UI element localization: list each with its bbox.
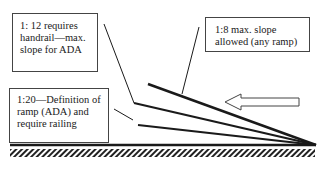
slope-line-1-12: [134, 103, 316, 145]
ground-hatch: [10, 149, 315, 157]
ground: [10, 145, 316, 157]
label-text-1-12: 1: 12 requires handrail—max. slope for A…: [20, 20, 86, 55]
label-slope-1-12: 1: 12 requires handrail—max. slope for A…: [12, 13, 98, 72]
leader-line-1-8: [182, 27, 199, 94]
label-text-1-20: 1:20—Definition of ramp (ADA) and requir…: [17, 94, 101, 129]
left-arrow-icon: [225, 94, 299, 110]
label-slope-1-8: 1:8 max. slope allowed (any ramp): [205, 17, 310, 52]
label-slope-1-20: 1:20—Definition of ramp (ADA) and requir…: [9, 88, 109, 143]
label-text-1-8: 1:8 max. slope allowed (any ramp): [215, 24, 297, 47]
leader-line-1-20: [114, 109, 133, 120]
